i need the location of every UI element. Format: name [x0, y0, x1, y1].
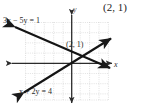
solution-callout: (2, 1)	[103, 2, 127, 13]
intersection-point-label: (2, 1)	[66, 41, 83, 49]
equation-bottom-text: x + 2y = 4	[19, 87, 52, 96]
equation-top-text: 3x − 5y = 1	[3, 16, 40, 25]
equation-label-bottom: x + 2y = 4	[19, 88, 52, 96]
equation-label-top: 3x − 5y = 1	[3, 17, 40, 25]
x-axis-label: x	[114, 61, 118, 69]
graph-figure: (2, 1) 3x − 5y = 1 x + 2y = 4 (2, 1) x y	[0, 0, 147, 109]
y-axis-label: y	[73, 6, 77, 14]
